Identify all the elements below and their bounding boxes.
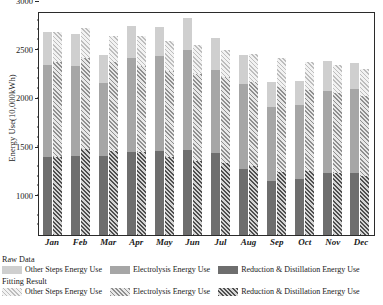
y-axis-tick-label: 2500 [16, 45, 35, 55]
bar-segment [295, 81, 304, 105]
month-bar-group [323, 13, 342, 235]
month-bar-group [183, 13, 202, 235]
raw-data-bar [350, 63, 359, 235]
bar-groups [39, 13, 374, 235]
bar-segment [323, 91, 332, 173]
fitting-result-bar [193, 45, 202, 235]
raw-data-bar [183, 18, 192, 235]
x-axis-tick-label: Apr [125, 237, 147, 247]
bar-segment [277, 172, 286, 235]
raw-data-bar [239, 55, 248, 235]
fitting-result-bar [221, 49, 230, 235]
y-axis-tick: 2500 [16, 45, 39, 55]
plot-area: 10001500200025003000 [38, 12, 375, 236]
fitting-legend-item[interactable]: Other Steps Energy Use [2, 287, 102, 296]
bar-segment [43, 32, 52, 65]
month-bar-group [211, 13, 230, 235]
x-axis-tick-label: Nov [322, 237, 344, 247]
bar-segment [221, 77, 230, 162]
raw-data-bar [155, 27, 164, 235]
x-axis-tick-label: Aug [238, 237, 260, 247]
raw-legend-item[interactable]: Electrolysis Energy Use [110, 265, 210, 274]
x-axis-tick-labels: JanFebMarAprMayJunJulAugSepOctNovDec [38, 237, 375, 247]
month-bar-group [43, 13, 62, 235]
month-bar-group [350, 13, 369, 235]
legend-raw-title: Raw Data [2, 255, 381, 264]
bar-segment [267, 82, 276, 108]
month-bar-group [155, 13, 174, 235]
bar-segment [267, 107, 276, 181]
bar-segment [350, 173, 359, 235]
legend-item-label: Reduction & Distillation Energy Use [241, 265, 360, 274]
bar-segment [99, 55, 108, 82]
bar-segment [350, 63, 359, 89]
bar-segment [99, 156, 108, 235]
y-axis-tick: 1000 [16, 191, 39, 201]
bar-segment [165, 71, 174, 157]
bar-segment [43, 157, 52, 235]
raw-data-bar [323, 61, 332, 235]
bar-segment [165, 157, 174, 235]
bar-segment [193, 74, 202, 161]
raw-data-bar [211, 38, 220, 235]
y-axis-tick-label: 1000 [16, 191, 35, 201]
bar-segment [295, 105, 304, 179]
fitting-legend-item[interactable]: Reduction & Distillation Energy Use [218, 287, 360, 296]
x-axis-tick-label: May [153, 237, 175, 247]
bar-segment [137, 152, 146, 235]
bar-segment [360, 176, 369, 235]
fitting-result-bar [109, 36, 118, 235]
bar-segment [221, 50, 230, 78]
legend-swatch-icon [218, 266, 238, 274]
x-axis-tick-label: Jun [181, 237, 203, 247]
chart-legend: Raw Data Other Steps Energy UseElectroly… [2, 255, 381, 299]
raw-data-bar [71, 34, 80, 235]
bar-segment [360, 96, 369, 176]
bar-segment [239, 84, 248, 169]
bar-segment [183, 150, 192, 235]
legend-swatch-icon [110, 288, 130, 296]
fitting-result-bar [53, 32, 62, 235]
legend-item-label: Other Steps Energy Use [25, 287, 102, 296]
bar-segment [127, 58, 136, 153]
raw-legend-item[interactable]: Reduction & Distillation Energy Use [218, 265, 360, 274]
legend-swatch-icon [218, 288, 238, 296]
legend-item-label: Electrolysis Energy Use [133, 287, 210, 296]
fitting-result-bar [81, 28, 90, 235]
energy-use-stacked-bar-chart: Energy Use(10,000kWh) 100015002000250030… [0, 0, 383, 305]
bar-segment [71, 156, 80, 235]
x-axis-tick-label: Jan [41, 237, 63, 247]
fitting-legend-item[interactable]: Electrolysis Energy Use [110, 287, 210, 296]
bar-segment [221, 163, 230, 235]
fitting-result-bar [333, 65, 342, 235]
raw-data-bar [99, 55, 108, 235]
x-axis-tick-label: Dec [350, 237, 372, 247]
y-axis-tick: 1500 [16, 142, 39, 152]
bar-segment [109, 151, 118, 235]
bar-segment [211, 153, 220, 235]
y-axis-tick-label: 3000 [16, 0, 35, 6]
x-axis-tick-label: Mar [97, 237, 119, 247]
bar-segment [155, 27, 164, 57]
bar-segment [211, 70, 220, 153]
fitting-result-bar [137, 36, 146, 235]
raw-data-bar [295, 81, 304, 235]
fitting-result-bar [249, 54, 258, 235]
bar-segment [137, 36, 146, 66]
bar-segment [360, 69, 369, 95]
x-axis-tick-label: Jul [210, 237, 232, 247]
legend-swatch-icon [2, 288, 22, 296]
bar-segment [127, 152, 136, 235]
bar-segment [99, 83, 108, 156]
bar-segment [249, 82, 258, 165]
month-bar-group [239, 13, 258, 235]
raw-data-bar [267, 82, 276, 235]
month-bar-group [267, 13, 286, 235]
legend-item-label: Other Steps Energy Use [25, 265, 102, 274]
bar-segment [155, 56, 164, 150]
y-axis-tick: 3000 [16, 0, 39, 6]
raw-legend-item[interactable]: Other Steps Energy Use [2, 265, 102, 274]
bar-segment [71, 34, 80, 66]
bar-segment [193, 45, 202, 74]
bar-segment [323, 173, 332, 235]
